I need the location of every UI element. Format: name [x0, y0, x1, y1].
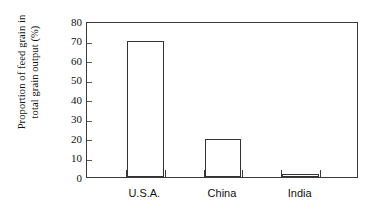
x-axis-tick-label: U.S.A. [105, 186, 183, 200]
y-axis-tick-mark [87, 121, 92, 122]
y-axis-tick-label: 70 [52, 36, 82, 47]
y-axis-tick-label: 30 [52, 114, 82, 125]
x-axis-tick-mark [242, 170, 243, 177]
plot-area [86, 22, 358, 178]
y-axis-tick-mark [87, 82, 92, 83]
y-axis-tick-mark [87, 101, 92, 102]
bar-china [205, 139, 242, 177]
y-axis-title-line-1: Proportion of feed grain in [15, 15, 28, 130]
bar-chart-figure: Proportion of feed grain in total grain … [0, 0, 365, 218]
y-axis-title: Proportion of feed grain in total grain … [8, 0, 48, 152]
bar-india [282, 174, 319, 177]
y-axis-tick-label: 50 [52, 75, 82, 86]
y-axis-tick-mark [87, 43, 92, 44]
y-axis-tick-mark [87, 62, 92, 63]
y-axis-tick-label: 0 [52, 173, 82, 184]
y-axis-tick-mark [87, 140, 92, 141]
x-axis-tick-label: China [183, 186, 261, 200]
y-axis-tick-label: 40 [52, 95, 82, 106]
bar-u-s-a [127, 41, 164, 178]
x-axis-tick-label: India [261, 186, 339, 200]
y-axis-tick-labels: 01020304050607080 [52, 16, 82, 184]
x-axis-tick-mark [320, 170, 321, 177]
y-axis-title-line-2: total grain output (%) [28, 26, 41, 119]
y-axis-tick-label: 20 [52, 134, 82, 145]
x-axis-tick-mark [165, 170, 166, 177]
y-axis-tick-mark [87, 160, 92, 161]
y-axis-tick-label: 10 [52, 153, 82, 164]
y-axis-tick-label: 80 [52, 17, 82, 28]
x-axis-tick-labels: U.S.A.ChinaIndia [86, 186, 358, 206]
y-axis-tick-label: 60 [52, 56, 82, 67]
